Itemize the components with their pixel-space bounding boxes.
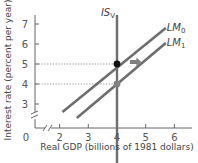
y-axis-break [31,111,38,118]
x-axis-title: Real GDP (billions of 1981 dollars) [40,142,193,152]
y-tick-label-6: 6 [22,39,28,50]
curve-label-subscript: V [110,12,115,20]
y-tick-label-4: 4 [22,79,28,90]
y-tick-label-3: 3 [22,99,28,110]
curves: ISVLM0LM1 [62,7,185,163]
curve-label-subscript: 1 [181,42,185,50]
equilibrium-point-initial [114,61,121,68]
curve-label-subscript: 0 [181,27,185,35]
reference-lines [36,64,117,84]
curve-label-lm1: LM1 [167,37,186,50]
y-axis-title: Interest rate (percent per year) [3,0,13,140]
y-tick-label-7: 7 [22,19,28,30]
y-tick-label-5: 5 [22,59,28,70]
curve-lm1 [77,43,166,118]
equilibrium-point-new [114,81,121,88]
curve-label-is: ISV [101,7,115,20]
curve-label-lm0: LM0 [167,22,186,35]
curve-lm0 [62,28,165,112]
origin-label: 0 [23,132,29,143]
is-lm-chart: ISVLM0LM1 3456723456 Real GDP (billions … [0,0,198,163]
